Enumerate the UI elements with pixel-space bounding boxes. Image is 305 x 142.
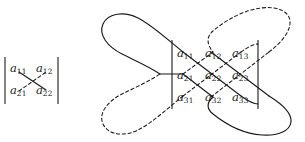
det3-entry-a21: a21: [177, 70, 193, 82]
det3-dashed-bottom-left-loop: [102, 74, 183, 134]
det3-entry-a32: a32: [205, 92, 221, 104]
det3-entry-a22: a22: [205, 70, 221, 82]
det3-entry-a11: a11: [177, 48, 193, 60]
det3-entry-a13: a13: [232, 48, 248, 60]
determinant-3x3-group: [102, 8, 291, 136]
det2-entry-a12: a12: [36, 63, 52, 75]
determinant-diagram: a11 a12 a21 a22 a11 a12 a13 a21 a22 a23 …: [0, 0, 305, 142]
det3-entry-a23: a23: [232, 70, 248, 82]
det2-entry-a11: a11: [10, 63, 26, 75]
det3-solid-top-left-loop: [102, 14, 183, 74]
det3-entry-a31: a31: [177, 92, 193, 104]
det3-entry-a12: a12: [205, 48, 221, 60]
det2-entry-a22: a22: [36, 85, 52, 97]
det3-dashed-top-right-loop: [208, 8, 290, 52]
det2-entry-a21: a21: [10, 85, 26, 97]
det3-entry-a33: a33: [232, 92, 248, 104]
